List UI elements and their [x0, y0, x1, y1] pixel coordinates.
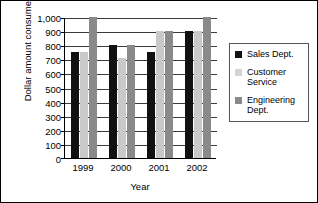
bar-2000-series-0: [109, 45, 117, 158]
chart-legend: Sales Dept.Customer ServiceEngineering D…: [229, 43, 309, 122]
x-tick-label-2000: 2000: [102, 162, 140, 173]
legend-swatch-engineering-icon: [235, 97, 242, 104]
y-tick-mark-1000: [61, 18, 65, 19]
y-tick-mark-400: [61, 103, 65, 104]
y-tick-label-400: 400: [17, 99, 61, 108]
y-tick-label-900: 900: [17, 28, 61, 37]
plot-area: [64, 18, 216, 159]
bar-2002-series-2: [203, 17, 211, 158]
legend-item-0[interactable]: Sales Dept.: [235, 49, 303, 60]
bar-2000-series-1: [118, 58, 126, 158]
legend-item-2[interactable]: Engineering Dept.: [235, 95, 303, 116]
y-tick-mark-100: [61, 145, 65, 146]
y-tick-label-700: 700: [17, 56, 61, 65]
y-tick-label-100: 100: [17, 141, 61, 150]
bar-2001-series-2: [165, 31, 173, 158]
x-axis-tick-labels: 1999200020012002: [64, 162, 216, 176]
y-tick-label-0: 0: [17, 155, 61, 164]
bar-2000-series-2: [127, 45, 135, 158]
bar-group-2000: [109, 18, 135, 158]
bar-2001-series-1: [156, 31, 164, 158]
legend-swatch-sales-icon: [235, 51, 242, 58]
bar-2001-series-0: [147, 52, 155, 158]
legend-label-1: Customer Service: [247, 67, 303, 88]
y-tick-label-600: 600: [17, 70, 61, 79]
x-tick-label-2001: 2001: [140, 162, 178, 173]
y-tick-label-500: 500: [17, 85, 61, 94]
y-tick-mark-900: [61, 32, 65, 33]
y-tick-label-200: 200: [17, 127, 61, 136]
y-tick-label-800: 800: [17, 42, 61, 51]
legend-item-1[interactable]: Customer Service: [235, 67, 303, 88]
y-axis-tick-labels: 1,0009008007006005004003002001000: [17, 13, 61, 161]
bar-chart-figure: Dollar amount consumed 1,000900800700600…: [0, 0, 318, 203]
legend-label-2: Engineering Dept.: [247, 95, 303, 116]
legend-swatch-customer-service-icon: [235, 69, 242, 76]
y-tick-mark-200: [61, 131, 65, 132]
bar-group-1999: [71, 18, 97, 158]
bar-group-2002: [185, 18, 211, 158]
bar-2002-series-0: [185, 31, 193, 158]
y-tick-mark-800: [61, 46, 65, 47]
bar-group-2001: [147, 18, 173, 158]
legend-label-0: Sales Dept.: [247, 49, 294, 60]
y-tick-mark-300: [61, 117, 65, 118]
y-tick-mark-700: [61, 60, 65, 61]
x-axis-title: Year: [64, 181, 216, 192]
y-tick-mark-500: [61, 89, 65, 90]
x-tick-label-2002: 2002: [178, 162, 216, 173]
x-tick-label-1999: 1999: [64, 162, 102, 173]
y-tick-label-300: 300: [17, 113, 61, 122]
bar-1999-series-0: [71, 52, 79, 158]
bar-1999-series-2: [89, 17, 97, 158]
bar-2002-series-1: [194, 31, 202, 158]
y-tick-mark-0: [61, 158, 65, 159]
y-tick-label-1000: 1,000: [17, 14, 61, 23]
y-tick-mark-600: [61, 74, 65, 75]
bar-1999-series-1: [80, 52, 88, 158]
